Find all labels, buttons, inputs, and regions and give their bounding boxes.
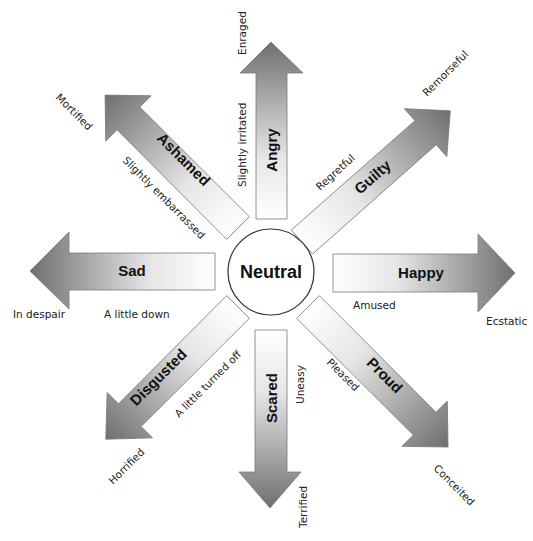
high-intensity-label-angry: Enraged — [236, 11, 248, 55]
low-intensity-label-scared: Uneasy — [294, 365, 306, 404]
emotion-label-angry: Angry — [263, 128, 280, 172]
high-intensity-label-happy: Ecstatic — [486, 315, 527, 327]
center-label-neutral: Neutral — [240, 262, 302, 282]
high-intensity-label-guilty: Remorseful — [420, 48, 471, 99]
low-intensity-label-happy: Amused — [353, 299, 396, 311]
low-intensity-label-sad: A little down — [104, 308, 170, 320]
high-intensity-label-scared: Terrified — [297, 486, 309, 529]
emotion-wheel-diagram: Angry Slightly irritated Enraged Happy A… — [0, 0, 533, 541]
arrow-scared: Scared Uneasy Terrified — [239, 330, 309, 529]
emotion-label-sad: Sad — [118, 262, 146, 279]
center-node: Neutral — [228, 229, 314, 315]
arrow-ashamed-icon — [82, 72, 260, 250]
arrow-angry: Angry Slightly irritated Enraged — [236, 11, 303, 219]
high-intensity-label-disgusted: Horrified — [106, 446, 147, 487]
high-intensity-label-sad: In despair — [13, 308, 66, 320]
high-intensity-label-ashamed: Mortified — [54, 91, 95, 132]
emotion-label-happy: Happy — [398, 264, 445, 281]
emotion-label-scared: Scared — [263, 373, 280, 423]
arrow-sad: Sad A little down In despair — [13, 232, 215, 320]
low-intensity-label-angry: Slightly irritated — [236, 103, 248, 187]
arrow-happy: Happy Amused Ecstatic — [333, 234, 527, 327]
arrow-ashamed — [82, 72, 260, 250]
high-intensity-label-proud: Conceited — [432, 462, 478, 508]
